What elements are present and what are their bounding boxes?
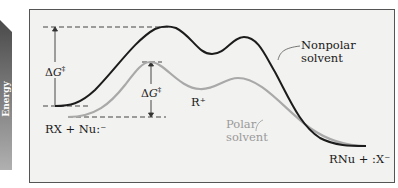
polar-solvent-curve [68,62,366,146]
nonpolar-solvent-label-line1: Nonpolar [301,40,356,52]
intermediate-label: R⁺ [191,97,206,109]
polar-solvent-label-line1: Polar [226,119,256,131]
polar-solvent-label-line2: solvent [226,132,268,144]
nonpolar-solvent-label-line2: solvent [301,53,343,65]
delta-g-nonpolar-label: ΔG‡ [45,66,65,78]
products-label: RNu + :X⁻ [329,154,390,166]
nonpolar-leader-line [278,46,300,60]
reactants-label: RX + Nu:⁻ [45,124,106,136]
delta-g-polar-label: ΔG‡ [141,87,161,99]
